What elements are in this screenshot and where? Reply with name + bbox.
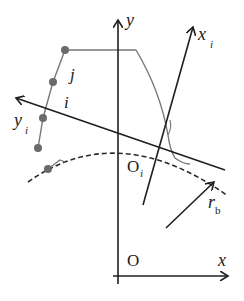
base-radius-arrow xyxy=(166,182,214,228)
x-axis-label: x xyxy=(217,250,226,270)
oi-subscript: i xyxy=(140,167,143,179)
point-i-label: i xyxy=(64,93,69,112)
xi-label: x xyxy=(197,24,206,44)
point-i xyxy=(39,114,47,122)
base-radius-subscript: b xyxy=(215,204,221,216)
point-j xyxy=(49,78,57,86)
xi-axis xyxy=(143,27,193,205)
point-j-label: j xyxy=(68,65,75,84)
yi-axis xyxy=(16,98,225,170)
origin-label: O xyxy=(127,251,139,270)
yi-subscript: i xyxy=(25,124,28,136)
y-axis-label: y xyxy=(124,10,134,30)
point-bottom xyxy=(44,165,52,173)
gear-tooth-diagram: y x O x i y i O i j i r b xyxy=(0,0,244,301)
point-top xyxy=(61,46,69,54)
xi-subscript: i xyxy=(210,38,213,50)
oi-label: O xyxy=(127,157,139,176)
yi-label: y xyxy=(12,110,22,130)
point-lower xyxy=(34,144,42,152)
tooth-profile xyxy=(38,50,190,169)
